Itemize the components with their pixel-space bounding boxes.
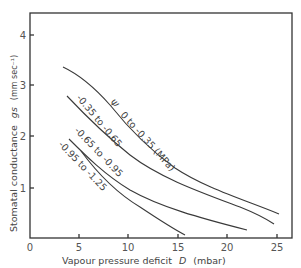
x-tick-15: 15 bbox=[172, 242, 185, 253]
x-axis: 0 5 10 15 20 25 Vapour pressure deficit … bbox=[27, 234, 284, 266]
chart: 0 5 10 15 20 25 Vapour pressure deficit … bbox=[0, 0, 301, 268]
y-tick-4: 4 bbox=[20, 30, 26, 41]
y-tick-3: 3 bbox=[20, 80, 26, 91]
y-axis-label: Stomatal conductance gs (mm sec⁻¹) bbox=[8, 55, 19, 232]
x-tick-0: 0 bbox=[27, 242, 33, 253]
y-tick-1: 1 bbox=[20, 183, 26, 194]
x-axis-label: Vapour pressure deficit D (mbar) bbox=[62, 255, 226, 266]
x-tick-10: 10 bbox=[122, 242, 135, 253]
y-tick-2: 2 bbox=[20, 131, 26, 142]
x-tick-25: 25 bbox=[271, 242, 284, 253]
x-tick-20: 20 bbox=[221, 242, 234, 253]
x-tick-5: 5 bbox=[76, 242, 82, 253]
